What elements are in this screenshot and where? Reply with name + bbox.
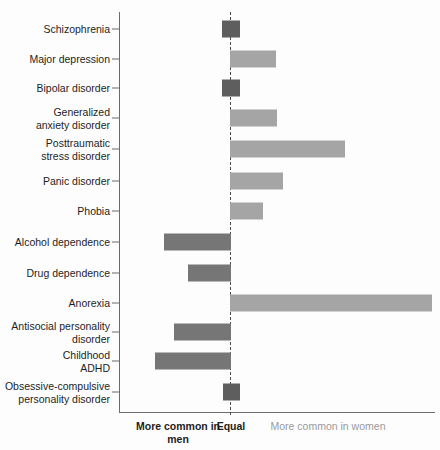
chart-row: Schizophrenia: [0, 14, 440, 44]
axis-tick: [112, 361, 119, 362]
chart-row: Childhood ADHD: [0, 346, 440, 376]
axis-tick: [112, 303, 119, 304]
axis-tick: [112, 242, 119, 243]
chart-row: Phobia: [0, 196, 440, 226]
chart-row: Generalized anxiety disorder: [0, 103, 440, 133]
bar-women: [230, 173, 283, 190]
chart-row: Bipolar disorder: [0, 73, 440, 103]
bar-equal: [222, 21, 240, 38]
bar-women: [230, 203, 263, 220]
chart-row: Antisocial personality disorder: [0, 317, 440, 347]
chart-row: Obsessive-compulsive personality disorde…: [0, 377, 440, 407]
axis-tick: [112, 273, 119, 274]
chart-row: Posttraumatic stress disorder: [0, 134, 440, 164]
category-label: Obsessive-compulsive personality disorde…: [0, 380, 110, 405]
bar-equal: [222, 80, 240, 97]
chart-row: Alcohol dependence: [0, 227, 440, 257]
bar-women: [230, 295, 432, 312]
bar-equal: [223, 384, 240, 401]
axis-tick: [112, 392, 119, 393]
chart-row: Panic disorder: [0, 166, 440, 196]
axis-tick: [112, 29, 119, 30]
chart-row: Major depression: [0, 44, 440, 74]
axis-caption-more-common-in-women: More common in women: [268, 420, 388, 433]
category-label: Alcohol dependence: [0, 236, 110, 249]
bar-women: [230, 51, 276, 68]
category-label: Drug dependence: [0, 267, 110, 280]
category-label: Panic disorder: [0, 175, 110, 188]
category-label: Posttraumatic stress disorder: [0, 137, 110, 162]
axis-tick: [112, 59, 119, 60]
bar-men: [188, 265, 231, 282]
bar-men: [155, 353, 231, 370]
axis-tick: [112, 88, 119, 89]
sex-difference-bar-chart: SchizophreniaMajor depressionBipolar dis…: [0, 0, 440, 450]
category-label: Phobia: [0, 205, 110, 218]
bar-men: [174, 324, 231, 341]
category-label: Schizophrenia: [0, 23, 110, 36]
category-label: Anorexia: [0, 297, 110, 310]
x-axis-line: [119, 412, 435, 413]
axis-tick: [112, 332, 119, 333]
category-label: Major depression: [0, 53, 110, 66]
axis-tick: [112, 118, 119, 119]
bar-women: [230, 110, 277, 127]
bar-women: [230, 141, 345, 158]
axis-tick: [112, 149, 119, 150]
chart-row: Drug dependence: [0, 258, 440, 288]
category-label: Childhood ADHD: [0, 349, 110, 374]
chart-row: Anorexia: [0, 288, 440, 318]
category-label: Bipolar disorder: [0, 82, 110, 95]
axis-tick: [112, 181, 119, 182]
axis-tick: [112, 211, 119, 212]
bar-men: [164, 234, 231, 251]
category-label: Antisocial personality disorder: [0, 320, 110, 345]
category-label: Generalized anxiety disorder: [0, 106, 110, 131]
axis-caption-equal: Equal: [203, 420, 259, 433]
